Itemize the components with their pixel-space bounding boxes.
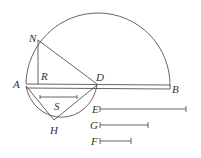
small-arc bbox=[26, 85, 97, 117]
base-line-top bbox=[26, 84, 170, 85]
segment-AH bbox=[26, 86, 54, 120]
label-B: B bbox=[172, 83, 179, 95]
label-E: E bbox=[91, 103, 99, 115]
label-S: S bbox=[54, 100, 60, 112]
label-A: A bbox=[12, 78, 20, 90]
label-G: G bbox=[90, 119, 98, 131]
geometry-diagram: N A R D B S H E G F bbox=[0, 0, 201, 158]
label-N: N bbox=[28, 32, 37, 44]
label-D: D bbox=[95, 71, 104, 83]
label-R: R bbox=[40, 70, 48, 82]
base-line-bottom bbox=[26, 88, 170, 89]
label-F: F bbox=[90, 135, 98, 147]
label-H: H bbox=[49, 124, 59, 136]
